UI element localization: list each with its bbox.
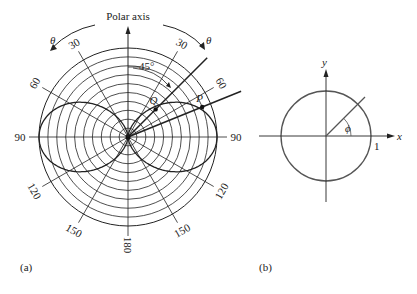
y-axis-arrowhead-icon [324, 69, 329, 77]
spoke [42, 137, 128, 187]
angle-tick-label: 30 [174, 36, 190, 52]
x-axis-label: x [396, 130, 402, 142]
unit-radius-label: 1 [374, 140, 380, 152]
polar-plot-figure-a: 150120906030306090120150180 QP Polar axi… [15, 10, 243, 274]
angle-45-label: 45° [139, 60, 154, 72]
polar-axis-label: Polar axis [106, 10, 150, 22]
spoke [128, 137, 214, 187]
angle-45-arrowhead-icon [166, 82, 171, 88]
ray-P [128, 91, 241, 137]
spoke [79, 51, 129, 137]
angle-tick-label: 90 [15, 131, 27, 143]
x-axis-arrowhead-icon [387, 134, 395, 139]
theta-label-left: θ [50, 34, 56, 46]
spoke [79, 137, 129, 223]
y-axis-label: y [321, 56, 327, 68]
point-Q-marker [153, 107, 157, 111]
point-P-marker [200, 105, 204, 109]
angle-tick-label: 90 [231, 131, 243, 143]
angle-tick-label: 120 [25, 181, 44, 202]
spoke [42, 88, 128, 138]
angle-tick-label: 60 [27, 75, 43, 91]
figure-canvas: 150120906030306090120150180 QP Polar axi… [0, 0, 417, 294]
angle-tick-label: 30 [66, 35, 82, 51]
figure-a-caption: (a) [20, 261, 33, 274]
spoke [128, 137, 178, 223]
polar-axis-arrowhead-icon [126, 26, 131, 34]
angle-tick-label: 150 [64, 221, 85, 240]
theta-label-right: θ [206, 34, 212, 46]
figure-b-caption: (b) [259, 261, 272, 274]
point-P-label: P [195, 92, 203, 104]
angle-tick-label: 120 [212, 180, 231, 201]
angle-tick-label: 60 [214, 75, 230, 91]
angle-tick-label: 180 [122, 237, 134, 254]
phi-label: ϕ [345, 122, 351, 134]
angle-tick-label: 150 [172, 221, 193, 240]
point-Q-label: Q [150, 94, 158, 106]
unit-circle-figure-b: ϕ x y 1 (b) [259, 56, 402, 274]
